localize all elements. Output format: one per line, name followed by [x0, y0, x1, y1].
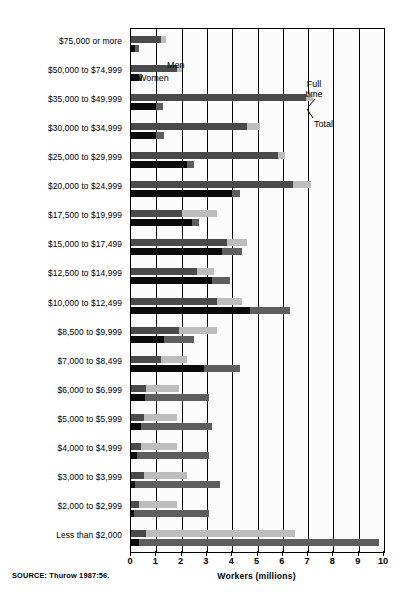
bar-segment-men-full-time	[131, 356, 161, 363]
bar-segment-men-full-time	[131, 530, 146, 537]
bar-men	[131, 94, 313, 101]
bar-men	[131, 123, 260, 130]
x-axis-tick-labels: 012345678910	[110, 556, 403, 569]
bar-men	[131, 181, 311, 188]
bar-women	[131, 510, 209, 517]
bar-men	[131, 268, 214, 275]
bar-segment-men-total	[146, 530, 295, 537]
bar-men	[131, 298, 242, 305]
bar-row	[131, 232, 384, 261]
bar-segment-women-full-time	[131, 219, 192, 226]
x-axis-tick-label: 10	[368, 556, 398, 567]
bar-segment-women-full-time	[131, 452, 137, 459]
bar-segment-men-total	[278, 152, 286, 159]
bar-segment-women-full-time	[131, 277, 212, 284]
bar-segment-men-total	[161, 36, 166, 43]
bar-segment-men-total	[197, 268, 215, 275]
bar-row	[131, 29, 384, 58]
bar-segment-men-full-time	[131, 443, 141, 450]
bar-row	[131, 145, 384, 174]
bar-segment-men-full-time	[131, 414, 144, 421]
bar-women	[131, 219, 199, 226]
bar-segment-women-total	[156, 103, 162, 110]
bar-row	[131, 436, 384, 465]
x-axis-title: Workers (millions)	[130, 571, 383, 581]
bar-men	[131, 472, 187, 479]
bar-women	[131, 277, 230, 284]
category-label: $12,500 to $14,999	[48, 269, 122, 278]
legend-label-men: Men	[167, 60, 185, 70]
category-label: $6,000 to $6,999	[58, 386, 122, 395]
bar-segment-men-total	[144, 472, 187, 479]
source-note: SOURCE: Thurow 1987:56.	[12, 571, 110, 580]
bar-segment-men-total	[247, 123, 260, 130]
bar-segment-men-full-time	[131, 239, 227, 246]
bar-segment-men-total	[217, 298, 242, 305]
bar-segment-men-total	[179, 327, 217, 334]
bar-men	[131, 210, 217, 217]
bar-segment-men-full-time	[131, 36, 161, 43]
bar-segment-women-total	[137, 452, 209, 459]
annotation-total: Total	[314, 119, 333, 129]
bar-men	[131, 152, 285, 159]
bar-women	[131, 365, 240, 372]
category-label: $4,000 to $4,999	[58, 444, 122, 453]
category-label: $50,000 to $74,999	[48, 66, 122, 75]
bar-segment-men-total	[293, 181, 311, 188]
bar-segment-men-total	[227, 239, 247, 246]
bar-women	[131, 307, 290, 314]
bar-segment-women-total	[164, 336, 194, 343]
bar-segment-men-full-time	[131, 472, 144, 479]
bar-row	[131, 87, 384, 116]
legend-label-women: Women	[138, 73, 169, 83]
bar-men	[131, 414, 177, 421]
bar-segment-women-total	[134, 510, 210, 517]
bar-segment-women-full-time	[131, 539, 139, 546]
bar-segment-men-full-time	[131, 123, 247, 130]
bar-segment-men-total	[146, 385, 179, 392]
bar-men	[131, 501, 177, 508]
bar-segment-women-full-time	[131, 423, 141, 430]
annotation-full-time-line2: time	[299, 89, 329, 99]
bar-segment-men-total	[161, 356, 186, 363]
bar-segment-women-full-time	[131, 365, 204, 372]
bar-segment-women-full-time	[131, 103, 156, 110]
bar-women	[131, 394, 209, 401]
category-label: $20,000 to $24,999	[48, 182, 122, 191]
bar-segment-women-total	[222, 248, 242, 255]
category-label: $7,000 to $8,499	[58, 357, 122, 366]
category-label: $75,000 or more	[59, 37, 122, 46]
bar-segment-women-full-time	[131, 307, 250, 314]
bar-segment-women-total	[204, 365, 239, 372]
bar-segment-women-total	[145, 394, 210, 401]
bar-women	[131, 190, 240, 197]
category-label: Less than $2,000	[56, 531, 122, 540]
bar-segment-women-total	[192, 219, 200, 226]
bar-women	[131, 423, 212, 430]
bar-segment-women-full-time	[131, 132, 156, 139]
bar-segment-women-total	[139, 539, 379, 546]
category-label: $5,000 to $5,999	[58, 415, 122, 424]
bar-row	[131, 407, 384, 436]
bar-segment-women-total	[187, 161, 195, 168]
bar-row	[131, 116, 384, 145]
bar-segment-men-full-time	[131, 327, 179, 334]
income-distribution-chart: Annual income (dollars) $75,000 or more$…	[0, 0, 405, 597]
bar-segment-men-full-time	[131, 298, 217, 305]
bar-row	[131, 291, 384, 320]
bar-segment-women-full-time	[131, 394, 145, 401]
bar-row	[131, 465, 384, 494]
category-label: $25,000 to $29,999	[48, 153, 122, 162]
bar-row	[131, 174, 384, 203]
bar-men	[131, 530, 295, 537]
annotation-full-time-line1: Full	[299, 79, 329, 89]
bar-segment-women-full-time	[131, 45, 135, 52]
bar-segment-women-full-time	[131, 161, 187, 168]
bar-rows	[131, 29, 384, 552]
bar-segment-men-full-time	[131, 385, 146, 392]
bar-segment-women-full-time	[131, 510, 134, 517]
bar-women	[131, 539, 379, 546]
bar-women	[131, 248, 242, 255]
bar-women	[131, 336, 194, 343]
bar-segment-women-full-time	[131, 336, 164, 343]
